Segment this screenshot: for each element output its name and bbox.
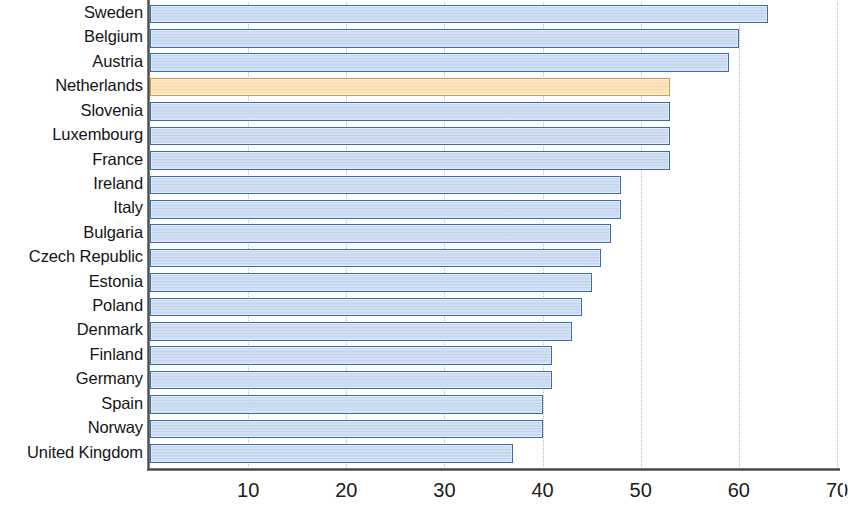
- category-label-sweden: Sweden: [0, 3, 143, 22]
- bar-row: Czech Republic: [150, 246, 837, 270]
- category-label-estonia: Estonia: [0, 272, 143, 291]
- bar-row: United Kingdom: [150, 442, 837, 466]
- bar-ireland[interactable]: [150, 176, 621, 195]
- x-axis-tick-labels: 10203040506070: [0, 471, 845, 506]
- page-edge: [843, 0, 845, 506]
- category-label-czech-republic: Czech Republic: [0, 247, 143, 266]
- bar-luxembourg[interactable]: [150, 127, 670, 146]
- y-axis-line: [147, 0, 150, 470]
- bar-czech-republic[interactable]: [150, 249, 601, 268]
- bar-row: Norway: [150, 417, 837, 441]
- bar-row: Italy: [150, 197, 837, 221]
- x-tick-label-30: 30: [433, 477, 455, 503]
- category-label-france: France: [0, 150, 143, 169]
- bar-row: Ireland: [150, 173, 837, 197]
- category-label-austria: Austria: [0, 52, 143, 71]
- bar-row: Belgium: [150, 26, 837, 50]
- bar-germany[interactable]: [150, 371, 552, 390]
- category-label-norway: Norway: [0, 418, 143, 437]
- bar-row: Denmark: [150, 319, 837, 343]
- bar-finland[interactable]: [150, 346, 552, 365]
- category-label-bulgaria: Bulgaria: [0, 223, 143, 242]
- bar-slovenia[interactable]: [150, 102, 670, 121]
- bar-row: Poland: [150, 295, 837, 319]
- x-tick-label-40: 40: [531, 477, 553, 503]
- bar-france[interactable]: [150, 151, 670, 170]
- category-label-poland: Poland: [0, 296, 143, 315]
- x-tick-label-10: 10: [237, 477, 259, 503]
- bar-austria[interactable]: [150, 53, 729, 72]
- x-tick-label-50: 50: [630, 477, 652, 503]
- bar-rows: SwedenBelgiumAustriaNetherlandsSloveniaL…: [150, 2, 837, 469]
- category-label-germany: Germany: [0, 369, 143, 388]
- x-tick-label-60: 60: [728, 477, 750, 503]
- category-label-spain: Spain: [0, 394, 143, 413]
- bar-norway[interactable]: [150, 420, 543, 439]
- bar-row: Netherlands: [150, 75, 837, 99]
- bar-row: Spain: [150, 393, 837, 417]
- bar-row: Sweden: [150, 2, 837, 26]
- category-label-slovenia: Slovenia: [0, 101, 143, 120]
- category-label-netherlands: Netherlands: [0, 76, 143, 95]
- bar-row: Bulgaria: [150, 222, 837, 246]
- category-label-denmark: Denmark: [0, 320, 143, 339]
- bar-poland[interactable]: [150, 298, 582, 317]
- bar-row: Finland: [150, 344, 837, 368]
- x-tick-label-20: 20: [335, 477, 357, 503]
- bar-row: Luxembourg: [150, 124, 837, 148]
- bar-row: Austria: [150, 51, 837, 75]
- bar-netherlands[interactable]: [150, 78, 670, 97]
- bar-denmark[interactable]: [150, 322, 572, 341]
- category-label-belgium: Belgium: [0, 27, 143, 46]
- bar-row: France: [150, 149, 837, 173]
- category-label-italy: Italy: [0, 198, 143, 217]
- bar-estonia[interactable]: [150, 273, 592, 292]
- bar-sweden[interactable]: [150, 5, 768, 24]
- bar-italy[interactable]: [150, 200, 621, 219]
- category-label-luxembourg: Luxembourg: [0, 125, 143, 144]
- bar-row: Slovenia: [150, 100, 837, 124]
- gridline-70: [837, 2, 839, 469]
- category-label-united-kingdom: United Kingdom: [0, 443, 143, 462]
- category-label-ireland: Ireland: [0, 174, 143, 193]
- bar-row: Germany: [150, 368, 837, 392]
- category-label-finland: Finland: [0, 345, 143, 364]
- bar-spain[interactable]: [150, 395, 543, 414]
- bar-bulgaria[interactable]: [150, 224, 611, 243]
- bar-row: Estonia: [150, 271, 837, 295]
- plot-area: SwedenBelgiumAustriaNetherlandsSloveniaL…: [150, 2, 837, 469]
- bar-belgium[interactable]: [150, 29, 739, 48]
- bar-united-kingdom[interactable]: [150, 444, 513, 463]
